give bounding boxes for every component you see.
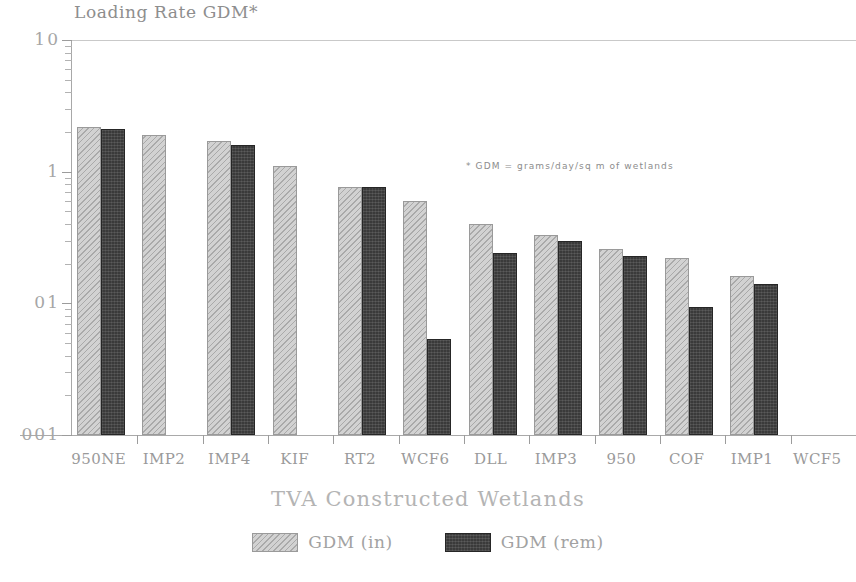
y-axis-tick-minor [65,224,72,225]
x-axis-label-wcf6: WCF6 [401,450,449,468]
y-axis-tick-major [62,172,72,173]
bar-950-gdm-in [599,249,623,435]
solid-dark-swatch [445,533,491,552]
y-axis-tick-minor [65,92,72,93]
y-axis-tick-major [62,303,72,304]
bar-imp2-gdm-in [142,135,166,435]
y-axis-tick-minor [65,343,72,344]
x-axis-tick [529,435,530,444]
x-axis-label-950: 950 [606,450,636,468]
y-axis-tick-minor [65,184,72,185]
x-axis-tick [595,435,596,444]
y-axis-label: 1 [8,161,60,181]
y-axis-label: 001 [8,424,60,444]
bar-kif-gdm-in [273,166,297,435]
y-axis-tick-minor [65,109,72,110]
x-axis-tick [203,435,204,444]
x-axis-label-imp4: IMP4 [208,450,251,468]
bar-imp4-gdm-rem [231,145,255,435]
y-axis-tick-minor [65,372,72,373]
x-axis-tick [333,435,334,444]
y-axis-tick-minor [65,395,72,396]
y-axis-tick-minor [65,264,72,265]
x-axis-tick [464,435,465,444]
hatched-light-swatch [252,533,298,552]
x-axis-label-imp3: IMP3 [535,450,578,468]
chart-figure: Loading Rate GDM* * GDM = grams/day/sq m… [0,0,856,582]
x-axis-label-dll: DLL [474,450,507,468]
x-axis-line [20,435,856,436]
y-axis-tick-minor [65,309,72,310]
bar-950-gdm-rem [623,256,647,435]
y-axis-tick-minor [65,46,72,47]
x-axis-tick [399,435,400,444]
y-axis-label: 01 [8,292,60,312]
legend-label: GDM (rem) [501,532,604,552]
x-axis-label-950ne: 950NE [71,450,126,468]
bar-imp3-gdm-rem [558,241,582,435]
bar-dll-gdm-in [469,224,493,435]
y-axis-tick-minor [65,201,72,202]
plot-area [72,40,856,435]
y-axis-tick-minor [65,333,72,334]
bar-imp3-gdm-in [534,235,558,435]
legend-entry[interactable]: GDM (rem) [445,532,604,552]
x-axis-label-kif: KIF [280,450,309,468]
y-axis-tick-minor [65,69,72,70]
legend-label: GDM (in) [308,532,392,552]
chart-title: Loading Rate GDM* [74,2,258,22]
bar-950ne-gdm-rem [101,129,125,435]
bar-imp1-gdm-rem [754,284,778,435]
y-axis-tick-minor [65,324,72,325]
bar-950ne-gdm-in [77,127,101,435]
bar-wcf6-gdm-rem [427,339,451,435]
x-axis-label-imp2: IMP2 [143,450,186,468]
y-axis-tick-minor [65,211,72,212]
bar-rt2-gdm-rem [362,187,386,435]
x-axis-label-rt2: RT2 [344,450,376,468]
y-axis-tick-minor [65,356,72,357]
y-axis-tick-minor [65,60,72,61]
x-axis-label-wcf5: WCF5 [793,450,841,468]
y-axis-tick-major [62,435,72,436]
x-axis-tick [725,435,726,444]
y-axis-tick-minor [65,178,72,179]
bar-imp1-gdm-in [730,276,754,435]
x-axis-title: TVA Constructed Wetlands [0,487,856,511]
bar-rt2-gdm-in [338,187,362,435]
y-axis-tick-minor [65,241,72,242]
y-axis-label: 10 [8,29,60,49]
y-axis-tick-minor [65,192,72,193]
x-axis-label-imp1: IMP1 [731,450,774,468]
x-axis-tick [791,435,792,444]
y-axis-tick-minor [65,132,72,133]
bar-cof-gdm-rem [689,307,713,435]
y-axis-tick-major [62,40,72,41]
x-axis-tick [137,435,138,444]
x-axis-tick [660,435,661,444]
bar-wcf6-gdm-in [403,201,427,435]
chart-legend: GDM (in)GDM (rem) [0,532,856,552]
bar-imp4-gdm-in [207,141,231,435]
x-axis-tick [268,435,269,444]
y-axis-tick-minor [65,316,72,317]
x-axis-label-cof: COF [669,450,704,468]
y-axis-tick-minor [65,53,72,54]
bar-cof-gdm-in [665,258,689,435]
legend-entry[interactable]: GDM (in) [252,532,392,552]
y-axis-tick-minor [65,80,72,81]
bar-dll-gdm-rem [493,253,517,435]
